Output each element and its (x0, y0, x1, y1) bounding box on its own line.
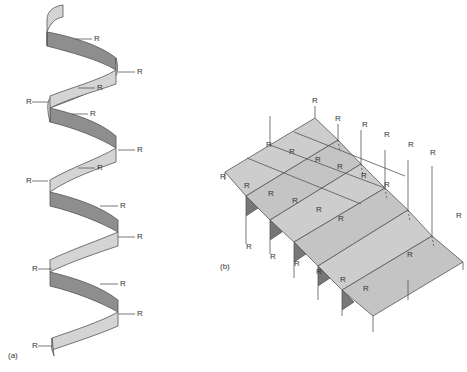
side-chain-label: R (316, 268, 322, 276)
panel-a-label: (a) (8, 351, 18, 360)
side-chain-label: R (335, 115, 341, 123)
side-chain-label: R (361, 172, 367, 180)
alpha-helix (47, 5, 118, 356)
side-chain-label: R (294, 260, 300, 268)
side-chain-label: R (32, 342, 38, 350)
side-chain-label: R (244, 182, 250, 190)
side-chain-label: R (137, 233, 143, 241)
side-chain-label: R (289, 148, 295, 156)
panel-b-label: (b) (220, 262, 230, 271)
side-chain-label: R (408, 141, 414, 149)
side-chain-label: R (90, 110, 96, 118)
side-chain-label: R (340, 276, 346, 284)
side-chain-label: R (97, 164, 103, 172)
side-chain-label: R (137, 310, 143, 318)
side-chain-label: R (292, 197, 298, 205)
side-chain-label: R (312, 97, 318, 105)
side-chain-label: R (266, 141, 272, 149)
side-chain-label: R (268, 190, 274, 198)
side-chain-label: R (137, 146, 143, 154)
side-chain-label: R (384, 181, 390, 189)
side-chain-label: R (338, 215, 344, 223)
side-chain-label: R (363, 285, 369, 293)
side-chain-label: R (26, 98, 32, 106)
side-chain-label: R (384, 131, 390, 139)
diagram-svg (0, 0, 467, 372)
side-chain-label: R (270, 253, 276, 261)
side-chain-label: R (246, 243, 252, 251)
side-chain-label: R (430, 149, 436, 157)
side-chain-label: R (362, 121, 368, 129)
side-chain-label: R (316, 206, 322, 214)
side-chain-label: R (337, 163, 343, 171)
figure-canvas: R R R R R R R R R R R R R R (a) R R R R … (0, 0, 467, 372)
side-chain-label: R (120, 280, 126, 288)
side-chain-label: R (137, 68, 143, 76)
side-chain-label: R (220, 173, 226, 181)
side-chain-label: R (97, 84, 103, 92)
side-chain-label: R (32, 265, 38, 273)
side-chain-label: R (407, 251, 413, 259)
side-chain-label: R (120, 202, 126, 210)
side-chain-label: R (26, 177, 32, 185)
beta-sheet (225, 118, 463, 316)
side-chain-label: R (94, 35, 100, 43)
side-chain-label: R (315, 156, 321, 164)
side-chain-label: R (456, 212, 462, 220)
